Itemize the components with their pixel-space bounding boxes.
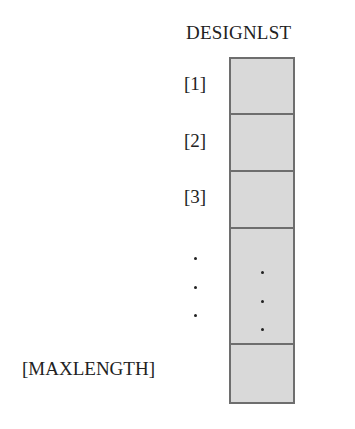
label-ellipsis-dot (194, 314, 197, 317)
array-cell-2 (229, 113, 295, 172)
ellipsis-dot (261, 300, 264, 303)
array-title: DESIGNLST (186, 22, 291, 44)
array-cell-maxlength (229, 343, 295, 404)
index-label-maxlength: [MAXLENGTH] (22, 358, 155, 380)
index-label-1: [1] (184, 73, 206, 95)
array-diagram (229, 57, 295, 404)
array-cell-3 (229, 170, 295, 229)
index-label-2: [2] (184, 130, 206, 152)
array-cell-1 (229, 57, 295, 115)
array-cell-ellipsis (229, 227, 295, 345)
label-ellipsis-dot (194, 257, 197, 260)
index-label-3: [3] (184, 186, 206, 208)
label-ellipsis-dot (194, 286, 197, 289)
ellipsis-dot (261, 271, 264, 274)
ellipsis-dot (261, 328, 264, 331)
